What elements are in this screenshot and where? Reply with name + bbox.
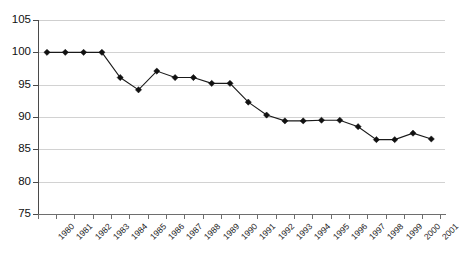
data-point-2001 (428, 136, 434, 142)
data-point-1988 (190, 74, 196, 80)
data-point-1994 (300, 118, 306, 124)
data-point-1982 (81, 49, 87, 55)
data-point-1999 (392, 137, 398, 143)
data-point-2000 (410, 130, 416, 136)
data-point-1981 (62, 49, 68, 55)
series-line-index (47, 52, 431, 139)
data-point-1987 (172, 74, 178, 80)
data-point-1996 (337, 117, 343, 123)
data-point-1989 (209, 80, 215, 86)
data-point-1993 (282, 118, 288, 124)
data-point-1980 (44, 49, 50, 55)
marker-group (44, 49, 435, 143)
data-point-1995 (318, 117, 324, 123)
